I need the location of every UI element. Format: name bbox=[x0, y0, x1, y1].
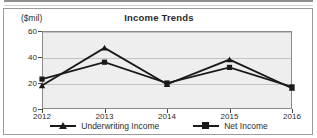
data-point-marker bbox=[226, 56, 232, 62]
data-point-marker bbox=[227, 65, 232, 70]
y-tick-label: 20 bbox=[28, 79, 37, 88]
y-axis-units-label: ($mil) bbox=[21, 13, 42, 23]
x-tick-mark bbox=[167, 109, 168, 113]
legend-item-net-income: Net Income bbox=[193, 121, 267, 131]
chart-plot-svg bbox=[42, 31, 292, 109]
cut-off-element-strip bbox=[0, 0, 317, 7]
x-tick-mark bbox=[105, 109, 106, 113]
legend-item-underwriting-income: Underwriting Income bbox=[50, 121, 159, 131]
chart-container: Income Trends ($mil) 0204060 20122013201… bbox=[3, 8, 313, 135]
chart-title: Income Trends bbox=[4, 12, 314, 23]
chart-legend: Underwriting Income Net Income bbox=[4, 119, 314, 133]
y-tick-label: 40 bbox=[28, 53, 37, 62]
data-point-marker bbox=[102, 60, 107, 65]
cut-off-divider-line bbox=[4, 0, 313, 2]
data-point-marker bbox=[164, 80, 169, 85]
legend-label-underwriting-income: Underwriting Income bbox=[81, 121, 159, 131]
data-point-marker bbox=[289, 84, 294, 89]
x-tick-mark bbox=[292, 109, 293, 113]
y-axis: 0204060 bbox=[20, 31, 40, 109]
cut-off-divider-line-secondary bbox=[4, 5, 313, 6]
x-tick-mark bbox=[230, 109, 231, 113]
x-tick-mark bbox=[42, 109, 43, 113]
y-tick-label: 60 bbox=[28, 27, 37, 36]
legend-marker-triangle-icon bbox=[50, 121, 76, 131]
data-point-marker bbox=[39, 77, 44, 82]
legend-marker-square-icon bbox=[193, 121, 219, 131]
legend-label-net-income: Net Income bbox=[224, 121, 267, 131]
data-point-marker bbox=[101, 45, 107, 51]
